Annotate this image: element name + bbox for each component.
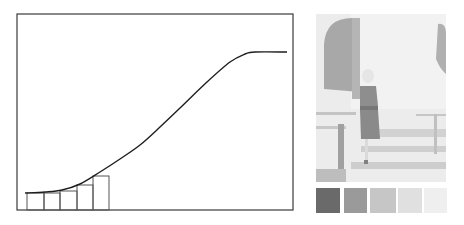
photo-post [338, 124, 344, 174]
step-bar-2 [44, 193, 60, 210]
photo-railing [316, 112, 356, 115]
tone-swatch-1 [316, 188, 340, 213]
photo-railing-right [416, 114, 446, 116]
photo-figure-belt [360, 106, 378, 110]
photo-figure-leg [365, 139, 368, 161]
tone-curve-chart [0, 0, 300, 225]
chart-frame [17, 14, 293, 210]
sample-photo [316, 14, 446, 182]
photo-figure-head [362, 69, 374, 83]
photo-post-right [434, 114, 437, 154]
step-bar-3 [60, 191, 77, 210]
tone-swatch-4 [398, 188, 422, 213]
photo-figure-top [360, 86, 378, 106]
photo-ground [316, 169, 346, 182]
step-bar-1 [27, 193, 44, 210]
tone-curve-line [25, 52, 287, 193]
tone-swatch-2 [344, 188, 367, 213]
photo-figure-shoe [364, 160, 368, 164]
tone-swatch-3 [370, 188, 396, 213]
step-bar-5 [93, 176, 109, 210]
photo-door-frame [352, 18, 360, 99]
photo-step-2 [361, 146, 446, 152]
photo-figure-skirt [360, 110, 380, 139]
step-bar-4 [77, 185, 93, 210]
tone-swatch-5 [424, 188, 447, 213]
tone-swatches [316, 188, 448, 213]
